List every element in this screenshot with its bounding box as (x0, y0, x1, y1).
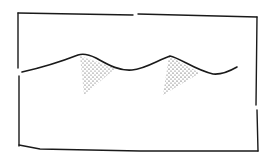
right-peak-shading (163, 56, 200, 95)
frame-bottom (19, 145, 258, 151)
frame-top-left (18, 13, 133, 15)
shaded-regions (80, 56, 200, 95)
frame-top-right (138, 14, 257, 17)
frame-right (256, 17, 258, 151)
sketch-diagram (0, 0, 275, 159)
wave-line (22, 54, 237, 74)
frame-left (18, 13, 19, 146)
frame (18, 13, 258, 151)
left-peak-shading (80, 56, 116, 95)
